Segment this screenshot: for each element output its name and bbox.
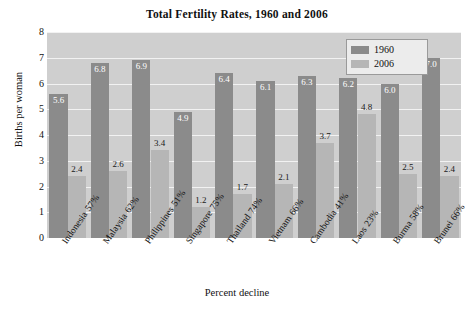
x-axis-tick-labels: Indonesia57%Malaysia62%Philippines51%Sin… [47, 240, 461, 292]
bar-1960-vietnam: 6.1 [256, 81, 274, 238]
legend-swatch-icon [351, 60, 369, 68]
legend-item-1960: 1960 [351, 43, 423, 57]
y-axis-title: Births per woman [13, 30, 24, 190]
bar-group: 5.62.4 [49, 32, 85, 238]
y-tick-label: 3 [26, 156, 44, 166]
chart-title: Total Fertility Rates, 1960 and 2006 [0, 8, 474, 20]
legend-label: 2006 [374, 59, 394, 69]
bar-group: 6.33.7 [298, 32, 334, 238]
fertility-rates-chart: Total Fertility Rates, 1960 and 2006 Bir… [0, 0, 474, 310]
y-tick-label: 0 [26, 233, 44, 243]
bar-group: 6.82.6 [91, 32, 127, 238]
bar-1960-philippines: 6.9 [132, 60, 150, 238]
bar-value-label: 3.7 [316, 132, 334, 141]
y-tick-label: 7 [26, 53, 44, 63]
y-tick-label: 2 [26, 182, 44, 192]
bar-1960-laos: 6.2 [339, 78, 357, 238]
bar-1960-cambodia: 6.3 [298, 76, 316, 238]
bar-value-label: 2.4 [68, 165, 86, 174]
y-tick-label: 6 [26, 79, 44, 89]
bar-1960-indonesia: 5.6 [49, 94, 67, 238]
bar-group: 6.12.1 [256, 32, 292, 238]
bar-1960-thailand: 6.4 [215, 73, 233, 238]
y-axis-tick-labels: 876543210 [26, 32, 44, 238]
bar-value-label: 4.8 [358, 103, 376, 112]
bar-group: 6.41.7 [215, 32, 251, 238]
bar-value-label: 3.4 [151, 139, 169, 148]
bar-value-label: 4.9 [174, 114, 192, 123]
bar-value-label: 6.0 [381, 86, 399, 95]
bar-1960-malaysia: 6.8 [91, 63, 109, 238]
bar-value-label: 6.2 [339, 80, 357, 89]
bar-value-label: 6.4 [215, 75, 233, 84]
legend-label: 1960 [374, 45, 394, 55]
bar-1960-brunei: 7.0 [422, 58, 440, 238]
bar-value-label: 1.7 [233, 183, 251, 192]
bar-value-label: 6.9 [132, 62, 150, 71]
legend-swatch-icon [351, 46, 369, 54]
bar-value-label: 6.1 [256, 83, 274, 92]
legend-item-2006: 2006 [351, 57, 423, 71]
y-tick-label: 1 [26, 207, 44, 217]
y-tick-label: 4 [26, 130, 44, 140]
bar-value-label: 5.6 [49, 96, 67, 105]
bar-value-label: 6.8 [91, 65, 109, 74]
x-axis-title: Percent decline [0, 287, 474, 298]
bar-1960-burma: 6.0 [381, 84, 399, 239]
y-tick-label: 8 [26, 27, 44, 37]
bar-group: 6.93.4 [132, 32, 168, 238]
chart-legend: 19602006 [346, 39, 428, 75]
bar-value-label: 6.3 [298, 78, 316, 87]
y-tick-label: 5 [26, 104, 44, 114]
bar-value-label: 1.2 [192, 196, 210, 205]
bar-group: 4.91.2 [174, 32, 210, 238]
